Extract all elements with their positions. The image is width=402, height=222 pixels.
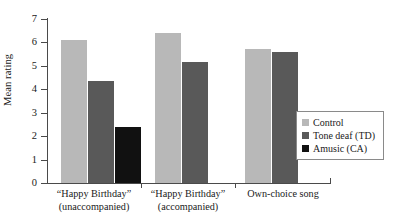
bar xyxy=(61,40,87,183)
x-axis-category-label-line: (accompanied) xyxy=(128,201,248,214)
legend-item-label: Amusic (CA) xyxy=(313,143,367,155)
bar xyxy=(88,81,114,183)
y-axis-tick-label: 1 xyxy=(32,153,37,166)
x-axis-line xyxy=(47,183,331,184)
bar-chart: Mean rating 01234567 “Happy Birthday”(un… xyxy=(0,0,402,222)
legend-item: Control xyxy=(302,116,375,129)
x-axis-category-label-line: Own-choice song xyxy=(223,188,343,201)
y-axis-tick: 4 xyxy=(41,89,47,90)
x-axis-start-tick xyxy=(47,178,48,184)
chart-legend: ControlTone deaf (TD)Amusic (CA) xyxy=(296,111,384,160)
y-axis-title-text: Mean rating xyxy=(2,6,13,106)
legend-item-label: Tone deaf (TD) xyxy=(313,130,375,142)
bar xyxy=(155,33,181,183)
y-axis-tick-label: 3 xyxy=(32,106,37,119)
bar xyxy=(272,52,298,183)
y-axis-tick-label: 4 xyxy=(32,82,37,95)
y-axis-title: Mean rating xyxy=(2,0,16,74)
y-axis-tick-label: 5 xyxy=(32,59,37,72)
y-axis-tick: 6 xyxy=(41,42,47,43)
y-axis-tick: 2 xyxy=(41,136,47,137)
legend-item: Tone deaf (TD) xyxy=(302,129,375,142)
y-axis-tick-label: 2 xyxy=(32,129,37,142)
y-axis-tick: 5 xyxy=(41,66,47,67)
y-axis-tick-label: 6 xyxy=(32,35,37,48)
legend-swatch-control xyxy=(302,119,309,126)
bar xyxy=(245,49,271,183)
y-axis-tick: 3 xyxy=(41,113,47,114)
x-axis-category-label: Own-choice song xyxy=(223,188,343,201)
bar xyxy=(115,127,141,183)
plot-area: 01234567 xyxy=(47,19,330,183)
bar xyxy=(182,62,208,183)
x-axis-end-tick xyxy=(330,178,331,184)
legend-item-label: Control xyxy=(313,117,344,129)
legend-swatch-amusic xyxy=(302,145,309,152)
legend-item: Amusic (CA) xyxy=(302,142,375,155)
y-axis-tick: 1 xyxy=(41,160,47,161)
legend-swatch-tone-deaf xyxy=(302,132,309,139)
y-axis-tick: 7 xyxy=(41,19,47,20)
y-axis-tick-label: 7 xyxy=(32,12,37,25)
